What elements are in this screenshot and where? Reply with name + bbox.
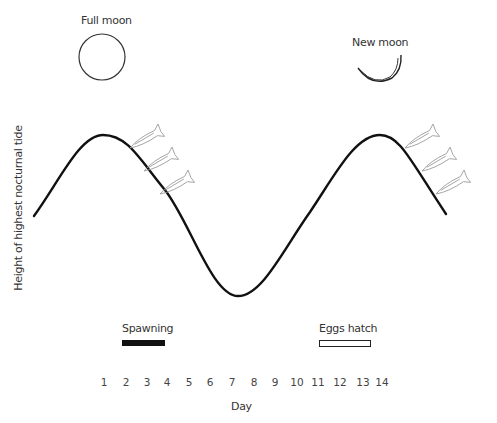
day-tick: 3 [144, 376, 151, 388]
y-axis-label: Height of highest nocturnal tide [12, 125, 25, 290]
day-tick: 2 [123, 376, 130, 388]
tide-curve [34, 135, 446, 296]
spawning-label: Spawning [122, 322, 173, 335]
fish-icon [140, 147, 178, 176]
eggs-hatch-label: Eggs hatch [319, 322, 377, 335]
fish-icon [401, 124, 439, 153]
day-tick: 13 [356, 376, 369, 388]
day-tick: 1 [101, 376, 108, 388]
spawning-bar [122, 340, 165, 346]
day-tick: 12 [333, 376, 346, 388]
day-tick: 14 [375, 376, 388, 388]
day-tick: 11 [311, 376, 324, 388]
day-tick: 6 [207, 376, 214, 388]
x-axis-label: Day [231, 400, 252, 413]
fish-icon [418, 147, 456, 176]
day-tick: 5 [186, 376, 193, 388]
fish-group-spawning [126, 124, 194, 199]
day-tick: 4 [164, 376, 171, 388]
day-tick: 10 [290, 376, 303, 388]
new-moon-icon [358, 55, 401, 81]
eggs-hatch-bar [319, 340, 371, 347]
tide-diagram [0, 0, 497, 423]
day-tick: 8 [251, 376, 258, 388]
day-tick: 9 [272, 376, 279, 388]
fish-icon [432, 170, 470, 199]
day-tick: 7 [229, 376, 236, 388]
full-moon-icon [79, 34, 125, 80]
